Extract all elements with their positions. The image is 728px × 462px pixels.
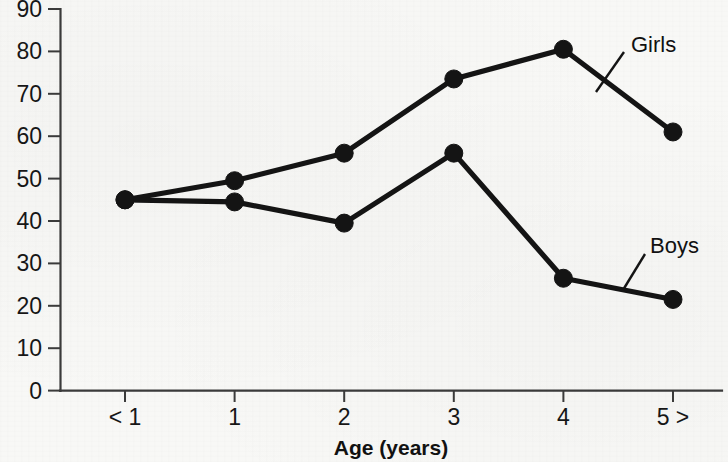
data-point <box>445 144 463 162</box>
y-tick-label-40: 40 <box>16 208 42 234</box>
y-tick-label-50: 50 <box>16 166 42 192</box>
y-tick-label-10: 10 <box>16 335 42 361</box>
y-tick-label-90: 90 <box>16 0 42 22</box>
series-line-girls <box>125 49 673 200</box>
line-chart: 90 80 70 60 50 40 30 20 10 0 < 1 1 2 3 4… <box>0 0 728 462</box>
y-tick-label-30: 30 <box>16 250 42 276</box>
x-tick-label-0: < 1 <box>109 404 142 430</box>
x-tick-label-5: 5 > <box>657 404 690 430</box>
data-point <box>664 290 682 308</box>
series-line-boys <box>125 153 673 299</box>
x-tick-label-2: 2 <box>338 404 351 430</box>
data-point <box>116 191 134 209</box>
girls-series-label: Girls <box>631 32 676 57</box>
annotation-boys: Boys <box>623 233 699 290</box>
series-boys <box>116 144 682 308</box>
x-tick-label-1: 1 <box>228 404 241 430</box>
series-layer <box>116 40 682 308</box>
chart-canvas: 90 80 70 60 50 40 30 20 10 0 < 1 1 2 3 4… <box>0 0 728 462</box>
boys-series-label: Boys <box>650 233 699 258</box>
x-tick-label-3: 3 <box>447 404 460 430</box>
boys-leader-line <box>623 254 645 290</box>
x-tick-label-4: 4 <box>557 404 570 430</box>
x-axis: < 1 1 2 3 4 5 > Age (years) <box>60 391 722 459</box>
data-point <box>226 172 244 190</box>
y-tick-label-80: 80 <box>16 38 42 64</box>
y-tick-label-0: 0 <box>29 378 42 404</box>
y-tick-label-60: 60 <box>16 123 42 149</box>
x-axis-title: Age (years) <box>334 436 448 459</box>
data-point <box>664 123 682 141</box>
series-girls <box>116 40 682 209</box>
data-point <box>554 269 572 287</box>
data-point <box>335 214 353 232</box>
y-tick-label-70: 70 <box>16 81 42 107</box>
data-point <box>226 193 244 211</box>
data-point <box>335 144 353 162</box>
data-point <box>554 40 572 58</box>
y-tick-label-20: 20 <box>16 293 42 319</box>
data-point <box>445 70 463 88</box>
y-axis: 90 80 70 60 50 40 30 20 10 0 <box>16 0 60 404</box>
